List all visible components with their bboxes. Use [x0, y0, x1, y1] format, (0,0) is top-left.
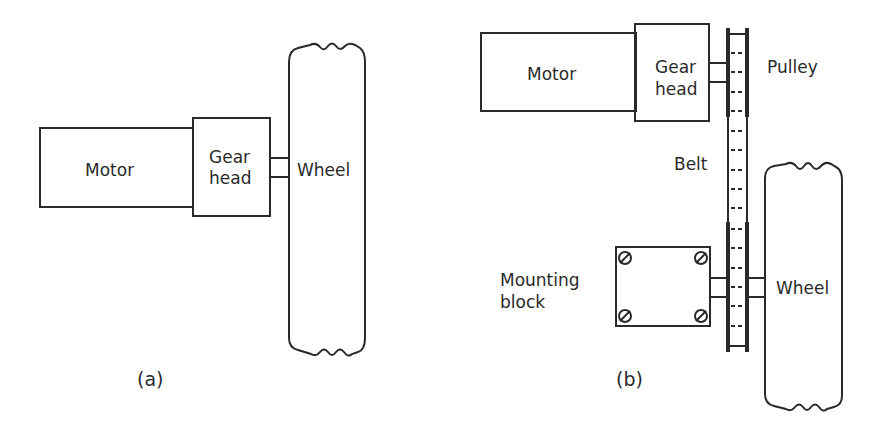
wheel-label-b: Wheel — [776, 278, 829, 298]
diagram-b: Motor Gear head Pulley Belt Mounting blo… — [481, 24, 842, 411]
drive-diagrams: Motor Gear head Wheel (a) — [0, 0, 881, 429]
caption-b: (b) — [616, 368, 643, 390]
screw-icon — [695, 310, 707, 322]
motor-label-b: Motor — [527, 64, 576, 84]
belt-label: Belt — [674, 154, 708, 174]
belt — [728, 28, 747, 352]
screw-icons — [619, 252, 707, 322]
belt-teeth — [728, 53, 747, 346]
gearhead-box-a — [193, 118, 270, 216]
mounting-label-line2: block — [500, 292, 545, 312]
shaft-a — [270, 158, 289, 177]
screw-icon — [695, 252, 707, 264]
caption-a: (a) — [137, 368, 163, 390]
diagram-a: Motor Gear head Wheel (a) — [40, 44, 365, 391]
pulley-label: Pulley — [767, 57, 818, 77]
shaft-top-b — [709, 63, 728, 82]
wheel-a — [289, 44, 365, 356]
mounting-label-line1: Mounting — [500, 270, 580, 290]
pulley-top — [728, 28, 747, 117]
shaft-bottom-b — [710, 278, 765, 297]
gearhead-label-a-line2: head — [209, 168, 251, 188]
gearhead-label-a-line1: Gear — [209, 147, 250, 167]
pulley-bottom — [728, 222, 747, 352]
wheel-label-a: Wheel — [297, 160, 350, 180]
screw-icon — [619, 252, 631, 264]
motor-label-a: Motor — [85, 160, 134, 180]
gearhead-label-b-line2: head — [655, 79, 697, 99]
gearhead-label-b-line1: Gear — [655, 57, 696, 77]
screw-icon — [619, 310, 631, 322]
